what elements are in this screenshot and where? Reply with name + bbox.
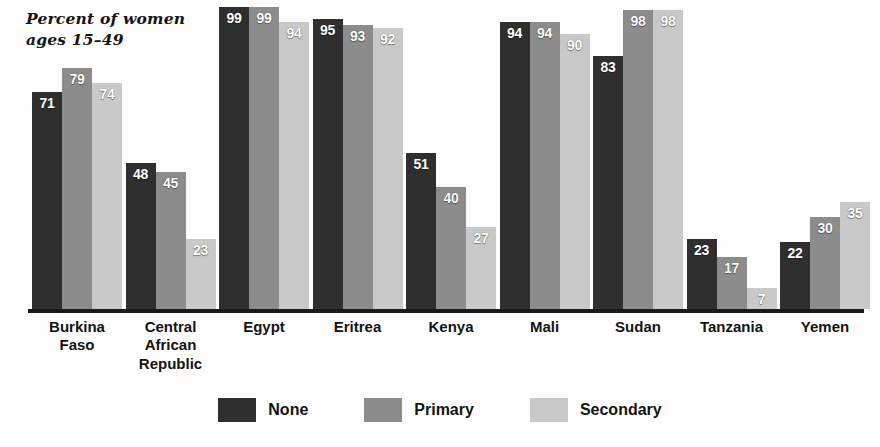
bar-rect: 92 <box>373 28 403 309</box>
bar-rect: 35 <box>840 202 870 309</box>
bar-rect: 22 <box>780 242 810 309</box>
bar: 98 <box>623 10 653 309</box>
bar-value-label: 83 <box>593 59 623 75</box>
bar: 83 <box>593 56 623 309</box>
bar-value-label: 48 <box>126 166 156 182</box>
bar-value-label: 35 <box>840 205 870 221</box>
bar-rect: 93 <box>343 25 373 309</box>
legend-label-secondary: Secondary <box>580 401 662 419</box>
chart-legend: None Primary Secondary <box>0 398 880 422</box>
bar-value-label: 90 <box>560 37 590 53</box>
bar: 27 <box>466 227 496 309</box>
legend-item-secondary[interactable]: Secondary <box>530 398 662 422</box>
bar-group: 484523 <box>126 163 216 309</box>
legend-label-primary: Primary <box>414 401 474 419</box>
bar-value-label: 99 <box>219 10 249 26</box>
bar-group: 514027 <box>406 153 496 309</box>
bar: 30 <box>810 217 840 309</box>
bar: 99 <box>219 7 249 309</box>
bar-rect: 94 <box>530 22 560 309</box>
axis-baseline <box>28 309 864 313</box>
bar-rect: 74 <box>92 83 122 309</box>
bar-value-label: 40 <box>436 190 466 206</box>
bar-rect: 90 <box>560 34 590 309</box>
bar-rect: 27 <box>466 227 496 309</box>
bar: 48 <box>126 163 156 309</box>
bar-value-label: 95 <box>313 22 343 38</box>
category-label: Mali <box>500 318 590 336</box>
bar-value-label: 79 <box>62 71 92 87</box>
legend-label-none: None <box>268 401 308 419</box>
bar-value-label: 94 <box>500 25 530 41</box>
bar-rect: 94 <box>500 22 530 309</box>
bar-rect: 45 <box>156 172 186 309</box>
bar: 7 <box>747 288 777 309</box>
bar-group: 23177 <box>687 239 777 309</box>
legend-swatch-secondary-icon <box>530 398 568 422</box>
bar-group: 999994 <box>219 7 309 309</box>
bar-rect: 23 <box>186 239 216 309</box>
category-label: Eritrea <box>313 318 403 336</box>
bar-value-label: 7 <box>747 291 777 307</box>
bar-rect: 40 <box>436 187 466 309</box>
bar-rect: 99 <box>219 7 249 309</box>
bar: 95 <box>313 19 343 309</box>
plot-area: 7179744845239999949593925140279494908398… <box>0 0 880 313</box>
category-label: Egypt <box>219 318 309 336</box>
bar-value-label: 51 <box>406 156 436 172</box>
bar-rect: 98 <box>653 10 683 309</box>
bar: 93 <box>343 25 373 309</box>
legend-item-none[interactable]: None <box>218 398 308 422</box>
bar-rect: 99 <box>249 7 279 309</box>
bar: 23 <box>687 239 717 309</box>
category-label: Kenya <box>406 318 496 336</box>
bar-group: 839898 <box>593 10 683 309</box>
bar-value-label: 98 <box>653 13 683 29</box>
category-label: Tanzania <box>687 318 777 336</box>
bar-value-label: 30 <box>810 220 840 236</box>
bar-rect: 23 <box>687 239 717 309</box>
legend-item-primary[interactable]: Primary <box>364 398 474 422</box>
bar-value-label: 23 <box>186 242 216 258</box>
bar: 98 <box>653 10 683 309</box>
bar: 23 <box>186 239 216 309</box>
bar: 94 <box>500 22 530 309</box>
bar: 92 <box>373 28 403 309</box>
bar: 71 <box>32 92 62 309</box>
bar-value-label: 27 <box>466 230 496 246</box>
bar-group: 949490 <box>500 22 590 309</box>
bar-value-label: 99 <box>249 10 279 26</box>
bar: 79 <box>62 68 92 309</box>
bar-value-label: 71 <box>32 95 62 111</box>
bar-rect: 17 <box>717 257 747 309</box>
bar-value-label: 93 <box>343 28 373 44</box>
bar-value-label: 92 <box>373 31 403 47</box>
bar-group: 959392 <box>313 19 403 309</box>
bar-value-label: 74 <box>92 86 122 102</box>
category-label: Burkina Faso <box>32 318 122 355</box>
bar-value-label: 94 <box>530 25 560 41</box>
bar: 51 <box>406 153 436 309</box>
bar: 22 <box>780 242 810 309</box>
bar-rect: 98 <box>623 10 653 309</box>
bar-rect: 83 <box>593 56 623 309</box>
bar-rect: 30 <box>810 217 840 309</box>
bar-value-label: 17 <box>717 260 747 276</box>
bar: 17 <box>717 257 747 309</box>
bar: 40 <box>436 187 466 309</box>
bar-value-label: 98 <box>623 13 653 29</box>
bar-value-label: 45 <box>156 175 186 191</box>
bar-rect: 95 <box>313 19 343 309</box>
category-label: Yemen <box>780 318 870 336</box>
bar: 35 <box>840 202 870 309</box>
bar-value-label: 22 <box>780 245 810 261</box>
bar: 45 <box>156 172 186 309</box>
category-label: Sudan <box>593 318 683 336</box>
bar-rect: 79 <box>62 68 92 309</box>
bar-value-label: 94 <box>279 25 309 41</box>
bar-rect: 94 <box>279 22 309 309</box>
bar: 94 <box>530 22 560 309</box>
bar-value-label: 23 <box>687 242 717 258</box>
legend-swatch-primary-icon <box>364 398 402 422</box>
bar-group: 717974 <box>32 68 122 309</box>
